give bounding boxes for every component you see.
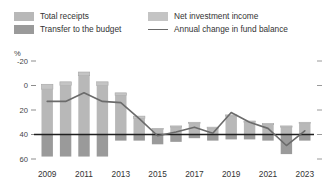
legend-item-transfer-to-the-budget: Transfer to the budget [14,25,121,34]
bar-transfer-to-the-budget [115,135,126,141]
y-tick-label: 20 [20,106,28,115]
bar-transfer-to-the-budget [60,135,71,157]
bar-net-investment-income [299,122,310,123]
bar-transfer-to-the-budget [225,135,236,140]
bar-transfer-to-the-budget [41,135,52,157]
bar-transfer-to-the-budget [262,135,273,141]
bar-net-investment-income [97,82,108,86]
x-axis: 20092011201320152017201920212023 [38,169,314,179]
legend-label-annual-change-in-fund-balance: Annual change in fund balance [174,25,288,34]
bar-transfer-to-the-budget [207,135,218,141]
bar-net-investment-income [189,122,200,123]
legend-item-annual-change-in-fund-balance: Annual change in fund balance [148,25,288,34]
x-tick-label: 2023 [296,169,315,179]
bar-total-receipts [41,89,52,134]
y-tick-label: 0 [24,81,28,90]
bar-transfer-to-the-budget [133,135,144,141]
x-tick-label: 2013 [112,169,131,179]
chart-legend: Total receipts Transfer to the budget Ne… [0,0,324,44]
legend-line-annual-change-in-fund-balance [148,29,168,30]
bar-net-investment-income [281,126,292,127]
y-tick-label: 40 [20,130,28,139]
bar-total-receipts [281,127,292,134]
bar-net-investment-income [115,93,126,95]
legend-swatch-total-receipts [14,12,34,21]
bar-series-group [41,72,310,157]
legend-swatch-net-investment-income [148,12,168,21]
legend-item-net-investment-income: Net investment income [148,12,258,21]
y-tick-label: 60 [20,155,28,164]
bar-total-receipts [299,123,310,134]
bar-transfer-to-the-budget [281,135,292,155]
bar-total-receipts [133,119,144,135]
bar-net-investment-income [41,84,52,89]
x-tick-label: 2015 [148,169,167,179]
y-axis: 6040200-20 [17,57,36,164]
legend-item-total-receipts: Total receipts [14,12,89,21]
bar-transfer-to-the-budget [170,135,181,142]
legend-label-net-investment-income: Net investment income [174,12,258,21]
x-tick-label: 2011 [75,169,93,179]
bar-net-investment-income [170,126,181,127]
x-tick-label: 2021 [259,169,278,179]
bar-net-investment-income [262,123,273,124]
bar-transfer-to-the-budget [78,135,89,157]
bar-total-receipts [78,76,89,135]
y-tick-label: -20 [17,57,28,66]
chart-figure: Total receipts Transfer to the budget Ne… [0,0,324,187]
x-tick-label: 2019 [222,169,241,179]
chart-svg: % 6040200-20 200920112013201520172019202… [0,44,324,187]
bar-transfer-to-the-budget [244,135,255,140]
bar-transfer-to-the-budget [97,135,108,157]
bar-total-receipts [225,116,236,134]
bar-net-investment-income [152,128,163,129]
bar-total-receipts [60,86,71,135]
bar-total-receipts [115,95,126,134]
legend-label-transfer-to-the-budget: Transfer to the budget [40,25,121,34]
x-tick-label: 2017 [185,169,204,179]
legend-label-total-receipts: Total receipts [40,12,89,21]
bar-total-receipts [97,86,108,135]
bar-net-investment-income [78,72,89,76]
chart-plot-area: % 6040200-20 200920112013201520172019202… [0,44,324,187]
bar-transfer-to-the-budget [299,135,310,141]
bar-net-investment-income [60,82,71,86]
x-tick-label: 2009 [38,169,57,179]
right-tick-marks [317,61,322,159]
legend-swatch-transfer-to-the-budget [14,25,34,34]
